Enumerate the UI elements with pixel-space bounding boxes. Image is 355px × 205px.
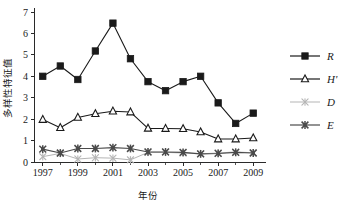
legend-swatch-marker [302, 53, 308, 59]
x-tick-label: 1997 [33, 167, 53, 178]
data-point-marker [92, 48, 98, 54]
data-point-marker [127, 56, 133, 62]
data-point-marker [197, 73, 203, 79]
x-tick-label: 2005 [173, 167, 193, 178]
y-tick-label: 6 [23, 28, 28, 39]
data-point-marker [145, 78, 151, 84]
data-point-marker [162, 87, 168, 93]
y-tick-label: 0 [23, 157, 28, 168]
x-tick-label: 1999 [68, 167, 88, 178]
legend-label: E [326, 119, 334, 131]
chart-canvas: 01234567 1997199920012003200520072009 RH… [0, 0, 355, 205]
diversity-index-line-chart: 01234567 1997199920012003200520072009 RH… [0, 0, 355, 205]
y-tick-label: 1 [23, 135, 28, 146]
legend-label: R [326, 50, 334, 62]
data-point-marker [215, 100, 221, 106]
x-tick-label: 2001 [103, 167, 123, 178]
data-point-marker [75, 76, 81, 82]
data-point-marker [57, 63, 63, 69]
data-point-marker [180, 78, 186, 84]
x-tick-label: 2009 [243, 167, 263, 178]
legend-label: H' [326, 73, 338, 85]
legend-label: D [326, 96, 335, 108]
data-point-marker [232, 120, 238, 126]
y-tick-label: 3 [23, 92, 28, 103]
y-tick-label: 7 [23, 7, 28, 18]
y-tick-label: 2 [23, 114, 28, 125]
y-tick-label: 4 [23, 71, 28, 82]
x-axis-title: 年份 [138, 190, 158, 201]
x-tick-label: 2003 [138, 167, 158, 178]
y-axis-title: 多样性特征值 [2, 58, 13, 118]
data-point-marker [110, 20, 116, 26]
y-tick-label: 5 [23, 49, 28, 60]
data-point-marker [40, 73, 46, 79]
data-point-marker [250, 110, 256, 116]
x-tick-label: 2007 [208, 167, 228, 178]
